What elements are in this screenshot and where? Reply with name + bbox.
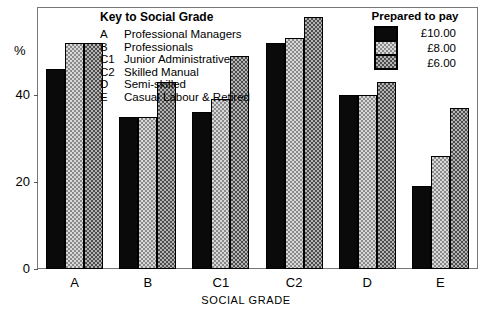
key-row-description: Casual Labour & Retired <box>124 91 250 104</box>
legend-title: Prepared to pay <box>356 10 474 23</box>
key-row: C2Skilled Manual <box>100 66 250 79</box>
legend-swatch-light <box>375 41 397 55</box>
bar <box>138 117 157 269</box>
y-tick-label: 20 <box>0 175 30 188</box>
x-axis-title: SOCIAL GRADE <box>0 294 492 306</box>
bar-group <box>46 8 103 269</box>
bar <box>46 69 65 269</box>
legend-entry-label: £10.00 <box>408 26 456 41</box>
y-axis-label: % <box>14 44 26 57</box>
bar <box>65 43 84 269</box>
legend-values: £10.00£8.00£6.00 <box>408 26 456 71</box>
key-row-description: Professionals <box>124 41 250 54</box>
x-tick-label: E <box>410 276 470 290</box>
key-row-description: Skilled Manual <box>124 66 250 79</box>
key-row: BProfessionals <box>100 41 250 54</box>
y-tick-label: 40 <box>0 88 30 101</box>
key-row-code: C2 <box>100 66 124 79</box>
bar <box>157 82 176 269</box>
bar <box>285 38 304 269</box>
legend-swatches <box>374 26 398 70</box>
key-title: Key to Social Grade <box>100 10 250 24</box>
key-row-description: Junior Administrative <box>124 53 250 66</box>
bar <box>304 17 323 269</box>
key-row: ECasual Labour & Retired <box>100 91 250 104</box>
bar <box>431 156 450 269</box>
legend-body: £10.00£8.00£6.00 <box>356 26 474 71</box>
key-row-code: C1 <box>100 53 124 66</box>
legend-entry-label: £8.00 <box>408 41 456 56</box>
y-tick-mark <box>34 269 38 270</box>
bar <box>211 99 230 269</box>
bar <box>119 117 138 269</box>
legend: Prepared to pay £10.00£8.00£6.00 <box>356 10 474 71</box>
key-row: DSemi-skilled <box>100 78 250 91</box>
bar <box>412 186 431 269</box>
key-row: AProfessional Managers <box>100 28 250 41</box>
legend-swatch-dark <box>375 55 397 69</box>
bar <box>377 82 396 269</box>
bar <box>339 95 358 269</box>
key-row-code: B <box>100 41 124 54</box>
x-tick-label: A <box>45 276 105 290</box>
legend-entry-label: £6.00 <box>408 56 456 71</box>
x-tick-label: C2 <box>264 276 324 290</box>
key-row-description: Professional Managers <box>124 28 250 41</box>
bar <box>192 112 211 269</box>
x-tick-label: D <box>337 276 397 290</box>
y-tick-label: 0 <box>0 262 30 275</box>
bar <box>450 108 469 269</box>
x-tick-label: B <box>118 276 178 290</box>
x-tick-label: C1 <box>191 276 251 290</box>
key-to-social-grade: Key to Social Grade AProfessional Manage… <box>100 10 250 104</box>
key-row: C1Junior Administrative <box>100 53 250 66</box>
bar-group <box>266 8 323 269</box>
key-rows: AProfessional ManagersBProfessionalsC1Ju… <box>100 28 250 104</box>
key-row-code: D <box>100 78 124 91</box>
key-row-code: E <box>100 91 124 104</box>
bar-chart: % 02040 ABC1C2DE SOCIAL GRADE Key to Soc… <box>0 0 492 313</box>
legend-swatch-black <box>375 27 397 41</box>
key-row-description: Semi-skilled <box>124 78 250 91</box>
bar <box>358 95 377 269</box>
key-row-code: A <box>100 28 124 41</box>
bar <box>266 43 285 269</box>
